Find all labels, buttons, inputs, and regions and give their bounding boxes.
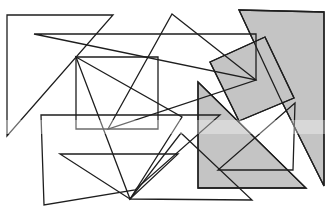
left-triangle-shape bbox=[7, 15, 113, 136]
center-rect-shape bbox=[76, 57, 158, 129]
geometric-figure bbox=[0, 0, 332, 216]
scan-band bbox=[0, 120, 332, 134]
